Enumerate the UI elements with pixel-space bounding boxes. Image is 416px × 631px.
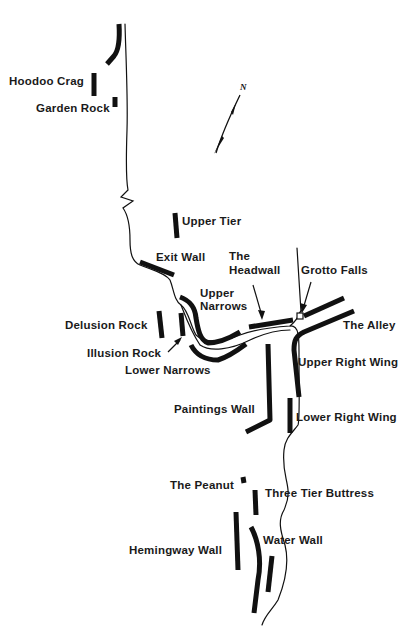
wall-water-wall xyxy=(251,527,260,613)
label-the-peanut: The Peanut xyxy=(170,479,234,492)
label-water-wall: Water Wall xyxy=(263,534,323,547)
label-the-headwall-line2: Headwall xyxy=(229,264,280,277)
label-lower-right-wing: Lower Right Wing xyxy=(296,411,397,424)
north-label: N xyxy=(240,82,247,92)
label-the-alley: The Alley xyxy=(343,319,396,332)
wall-lower-narrows xyxy=(191,344,246,360)
wall-three-tier-buttress xyxy=(255,490,256,515)
label-garden-rock: Garden Rock xyxy=(36,102,110,115)
wall-top xyxy=(107,24,119,64)
grotto-falls-pointer-arrow xyxy=(300,282,311,313)
grotto-falls-marker xyxy=(297,313,303,319)
label-lower-narrows: Lower Narrows xyxy=(125,364,211,377)
headwall-pointer-arrow xyxy=(253,285,265,320)
label-exit-wall: Exit Wall xyxy=(156,251,205,264)
label-delusion-rock: Delusion Rock xyxy=(65,319,147,332)
label-paintings-wall: Paintings Wall xyxy=(174,403,255,416)
wall-paintings-wall xyxy=(246,344,270,432)
label-upper-right-wing: Upper Right Wing xyxy=(298,356,398,369)
wall-water-wall-outer xyxy=(268,556,272,592)
label-three-tier-buttress: Three Tier Buttress xyxy=(265,487,374,500)
north-arrow-icon xyxy=(214,95,240,154)
label-upper-tier: Upper Tier xyxy=(182,215,241,228)
label-upper-narrows-line2: Narrows xyxy=(200,300,247,313)
label-upper-narrows-line1: Upper xyxy=(200,287,234,300)
illusion-rock-pointer-arrow xyxy=(168,337,182,352)
label-illusion-rock: Illusion Rock xyxy=(87,347,161,360)
label-hoodoo-crag: Hoodoo Crag xyxy=(9,75,84,88)
wall-hemingway-wall xyxy=(236,512,238,570)
label-the-headwall-line1: The xyxy=(229,250,250,263)
wall-the-peanut xyxy=(243,477,244,483)
grotto-falls-stream xyxy=(297,248,301,312)
wall-grotto-falls xyxy=(304,298,344,316)
label-grotto-falls: Grotto Falls xyxy=(301,264,368,277)
label-hemingway-wall: Hemingway Wall xyxy=(129,544,222,557)
climbing-area-map xyxy=(0,0,416,631)
wall-upper-tier xyxy=(175,213,177,238)
wall-delusion-rock xyxy=(159,311,162,338)
wall-illusion-rock xyxy=(181,313,183,336)
